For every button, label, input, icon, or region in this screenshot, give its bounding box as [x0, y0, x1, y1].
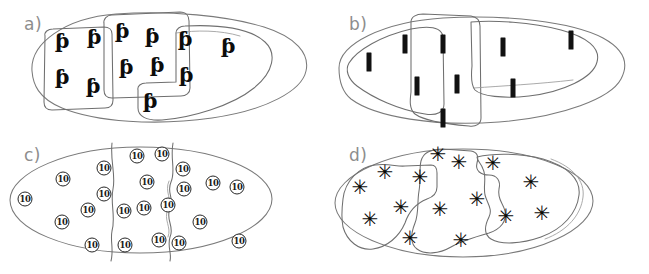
panel-a-population-ellipse: [32, 13, 307, 122]
panel-d-subgroup-2: [412, 149, 506, 253]
panel-b-overlap-stroke: [474, 80, 573, 88]
panel-b-subgroup-2: [410, 14, 481, 126]
panel-c-divider-1: [111, 143, 114, 261]
panel-c-population-ellipse: [10, 147, 272, 253]
panel-d-subgroup-1: [342, 164, 437, 249]
panel-a-subgroup-2: [104, 12, 190, 98]
panel-d-subgroup-3: [477, 154, 579, 243]
panel-a: a) ƥ ƥ ƥ ƥ ƥ ƥ ƥ ƥ ƥ ƥ ƥ ƥ: [0, 0, 324, 137]
panel-a-overlap-stroke: [176, 31, 240, 36]
panel-c-drawing: [0, 137, 324, 274]
panel-b: b): [325, 0, 649, 137]
panel-a-subgroup-3: [138, 26, 272, 121]
figure-root: a) ƥ ƥ ƥ ƥ ƥ ƥ ƥ ƥ ƥ ƥ ƥ ƥ b): [0, 0, 649, 274]
panel-b-population-ellipse: [339, 17, 625, 123]
panel-d: d) ✳ ✳ ✳ ✳ ✳ ✳ ✳ ✳ ✳ ✳ ✳ ✳ ✳ ✳ ✳: [325, 137, 649, 274]
panel-b-subgroup-3: [471, 21, 598, 97]
panel-b-drawing: [325, 0, 649, 137]
panel-b-subgroup-1: [347, 27, 444, 114]
panel-a-subgroup-1: [44, 27, 113, 110]
panel-c: c) 10 10 10 10 10 10 10 10 10 10 10 10 1…: [0, 137, 324, 274]
panel-a-drawing: [0, 0, 324, 137]
panel-d-drawing: [325, 137, 649, 274]
